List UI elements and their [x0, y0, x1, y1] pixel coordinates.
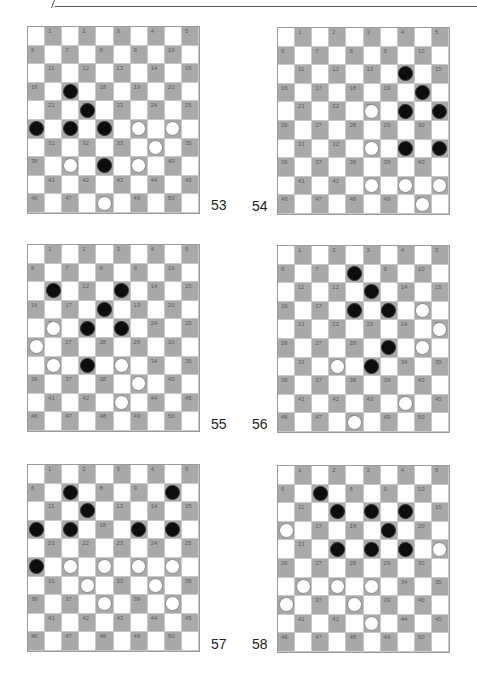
square-43: 43 — [114, 614, 131, 633]
square-23: 23 — [114, 319, 131, 338]
draughts-board-53: 1234567891011121314151617181920212223242… — [27, 26, 200, 214]
square-4: 4 — [148, 27, 165, 46]
square-2: 2 — [329, 466, 346, 485]
square-8: 8 — [96, 46, 113, 65]
square-6: 6 — [28, 264, 45, 283]
square-number: 37 — [315, 159, 322, 165]
square-number: 9 — [134, 47, 137, 53]
square-22: 22 — [79, 539, 96, 558]
light-square — [364, 522, 381, 541]
square-30: 30 — [415, 339, 432, 358]
square-41: 41 — [295, 395, 312, 414]
light-square — [148, 157, 165, 176]
square-number: 6 — [281, 266, 284, 272]
light-square — [79, 558, 96, 577]
light-square — [131, 394, 148, 413]
white-piece-icon — [63, 559, 78, 574]
square-50: 50 — [415, 413, 432, 432]
light-square — [96, 539, 113, 558]
square-number: 40 — [418, 597, 425, 603]
black-piece-icon — [364, 504, 379, 519]
square-21: 21 — [295, 102, 312, 121]
square-46: 46 — [28, 632, 45, 651]
light-square — [415, 283, 432, 302]
light-square — [415, 540, 432, 559]
square-30: 30 — [165, 558, 182, 577]
square-22: 22 — [79, 101, 96, 120]
light-square — [28, 176, 45, 195]
square-number: 16 — [31, 84, 38, 90]
square-49: 49 — [381, 195, 398, 214]
black-piece-icon — [347, 266, 362, 281]
square-number: 41 — [48, 615, 55, 621]
square-number: 42 — [82, 395, 89, 401]
light-square — [346, 615, 363, 634]
light-square — [415, 28, 432, 47]
square-25: 25 — [182, 101, 199, 120]
light-square — [381, 395, 398, 414]
black-piece-icon — [381, 340, 396, 355]
square-number: 7 — [315, 266, 318, 272]
square-number: 44 — [151, 395, 158, 401]
light-square — [131, 577, 148, 596]
square-8: 8 — [346, 265, 363, 284]
square-number: 6 — [31, 485, 34, 491]
light-square — [79, 264, 96, 283]
light-square — [329, 195, 346, 214]
white-piece-icon — [131, 158, 146, 173]
square-28: 28 — [346, 121, 363, 140]
light-square — [182, 46, 199, 65]
square-number: 45 — [185, 395, 192, 401]
white-piece-icon — [364, 579, 379, 594]
light-square — [45, 521, 62, 540]
square-number: 6 — [31, 47, 34, 53]
square-48: 48 — [96, 632, 113, 651]
square-15: 15 — [182, 64, 199, 83]
square-33: 33 — [114, 357, 131, 376]
light-square — [295, 376, 312, 395]
light-square — [148, 46, 165, 65]
square-15: 15 — [432, 65, 449, 84]
light-square — [28, 502, 45, 521]
square-16: 16 — [28, 301, 45, 320]
light-square — [346, 102, 363, 121]
square-number: 1 — [48, 246, 51, 252]
square-number: 3 — [367, 29, 370, 35]
square-number: 43 — [117, 615, 124, 621]
square-13: 13 — [114, 502, 131, 521]
square-47: 47 — [62, 632, 79, 651]
square-number: 7 — [65, 265, 68, 271]
diagram-label: 56 — [252, 416, 268, 432]
light-square — [278, 177, 295, 196]
square-number: 49 — [134, 195, 141, 201]
square-number: 38 — [349, 377, 356, 383]
square-38: 38 — [346, 158, 363, 177]
light-square — [114, 301, 131, 320]
white-piece-icon — [432, 542, 447, 557]
light-square — [182, 157, 199, 176]
square-number: 37 — [315, 377, 322, 383]
square-11: 11 — [295, 65, 312, 84]
light-square — [278, 395, 295, 414]
square-number: 20 — [168, 302, 175, 308]
light-square — [114, 484, 131, 503]
square-18: 18 — [346, 302, 363, 321]
square-44: 44 — [398, 395, 415, 414]
square-36: 36 — [28, 595, 45, 614]
square-35: 35 — [182, 357, 199, 376]
square-number: 22 — [332, 103, 339, 109]
light-square — [312, 320, 329, 339]
square-number: 35 — [185, 140, 192, 146]
square-40: 40 — [165, 595, 182, 614]
square-3: 3 — [364, 466, 381, 485]
square-24: 24 — [148, 101, 165, 120]
square-5: 5 — [432, 28, 449, 47]
light-square — [312, 246, 329, 265]
light-square — [45, 632, 62, 651]
square-number: 11 — [298, 504, 304, 510]
square-33: 33 — [364, 358, 381, 377]
square-27: 27 — [62, 120, 79, 139]
light-square — [96, 502, 113, 521]
light-square — [278, 503, 295, 522]
light-square — [415, 615, 432, 634]
